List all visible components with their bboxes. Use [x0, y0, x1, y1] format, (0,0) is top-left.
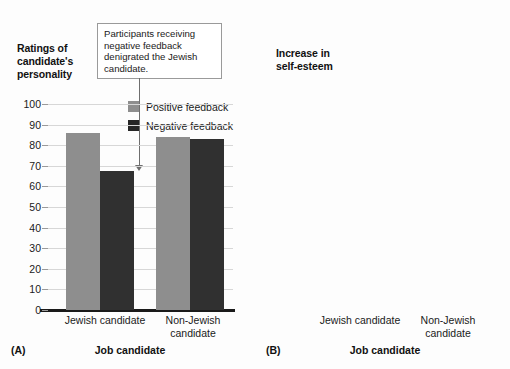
y-axis-tick-label: 70	[29, 160, 41, 172]
category-label-jewish-a: Jewish candidate	[60, 314, 150, 327]
x-axis-title-a: Job candidate	[55, 344, 205, 356]
category-label-jewish-b: Jewish candidate	[315, 314, 405, 327]
plot-area-a: 0102030405060708090100	[48, 104, 233, 310]
y-axis-tick-label: 20	[29, 263, 41, 275]
callout-box-a: Participants receiving negative feedback…	[97, 23, 222, 79]
y-axis-tick-mark	[42, 125, 48, 126]
y-axis-tick-label: 10	[29, 283, 41, 295]
y-axis-tick-mark	[42, 310, 48, 311]
y-axis-tick-label: 30	[29, 242, 41, 254]
y-axis-tick-mark	[42, 248, 48, 249]
y-axis-tick-label: 80	[29, 139, 41, 151]
y-axis-tick-label: 0	[35, 304, 41, 316]
bar-a-nonjewish-positive	[156, 137, 190, 310]
category-label-nonjewish-b: Non-Jewish candidate	[403, 314, 493, 339]
y-axis-tick-mark	[42, 186, 48, 187]
gridline	[48, 125, 233, 126]
y-axis-title-a: Ratings of candidate's personality	[17, 42, 97, 81]
y-axis-tick-label: 60	[29, 180, 41, 192]
y-axis-tick-mark	[42, 166, 48, 167]
y-axis-tick-mark	[42, 269, 48, 270]
figure-container: Ratings of candidate's personality Posit…	[0, 0, 510, 369]
category-label-nonjewish-a: Non-Jewish candidate	[148, 314, 238, 339]
y-axis-tick-label: 50	[29, 201, 41, 213]
chart-panel-b: Increase in self-esteem Positive feedbac…	[255, 0, 510, 369]
y-axis-tick-mark	[42, 104, 48, 105]
y-axis-tick-mark	[42, 145, 48, 146]
y-axis-tick-mark	[42, 207, 48, 208]
chart-panel-a: Ratings of candidate's personality Posit…	[0, 0, 255, 369]
y-axis-tick-label: 40	[29, 222, 41, 234]
panel-letter-a: (A)	[11, 344, 26, 356]
y-axis-title-b: Increase in self-esteem	[276, 47, 352, 73]
bar-a-jewish-negative	[100, 171, 134, 310]
gridline	[48, 104, 233, 105]
panel-letter-b: (B)	[266, 344, 281, 356]
bar-a-nonjewish-negative	[190, 139, 224, 310]
y-axis-tick-label: 90	[29, 119, 41, 131]
bar-a-jewish-positive	[66, 133, 100, 310]
y-axis-tick-mark	[42, 228, 48, 229]
y-axis-tick-mark	[42, 289, 48, 290]
y-axis-tick-label: 100	[23, 98, 41, 110]
x-axis-title-b: Job candidate	[310, 344, 460, 356]
